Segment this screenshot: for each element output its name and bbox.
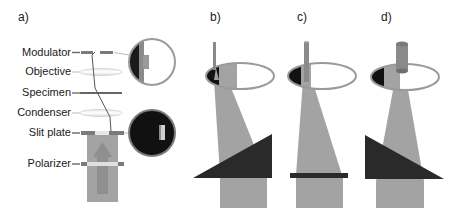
panel-label-c: c) xyxy=(297,11,307,23)
panel-c-diagram xyxy=(288,41,356,208)
panel-a-optical-train xyxy=(72,39,175,202)
panel-d-diagram xyxy=(365,42,444,209)
modulator-ellipse-c xyxy=(288,60,356,90)
panel-b-diagram xyxy=(193,42,274,208)
rod-d xyxy=(396,42,408,74)
rod-b xyxy=(213,42,216,70)
label-polarizer: Polarizer xyxy=(28,158,71,169)
rod-c xyxy=(304,42,309,82)
label-modulator: Modulator xyxy=(22,47,71,58)
label-condenser: Condenser xyxy=(17,107,71,118)
flat-plate-c xyxy=(290,173,348,178)
objective-lens xyxy=(80,69,122,76)
modulator-detail-circle xyxy=(129,39,175,85)
light-ray-path xyxy=(92,52,111,131)
panel-label-b: b) xyxy=(210,11,221,23)
label-specimen: Specimen xyxy=(22,87,71,98)
panel-label-a: a) xyxy=(18,11,29,23)
hoffman-modulation-diagram: a) b) c) d) Modulator Objective Specimen… xyxy=(0,0,464,217)
panel-label-d: d) xyxy=(381,11,392,23)
slit-plate-detail-circle xyxy=(129,110,175,156)
condenser-lens xyxy=(80,110,122,117)
label-slit-plate: Slit plate xyxy=(29,127,71,138)
label-objective: Objective xyxy=(25,66,71,77)
modulator-bar xyxy=(81,51,113,54)
